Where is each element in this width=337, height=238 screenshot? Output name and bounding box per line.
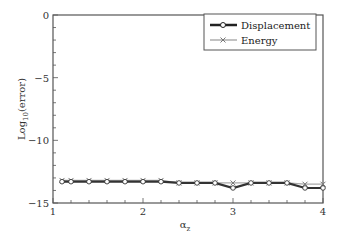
- legend-displacement-marker: [221, 23, 226, 28]
- x-axis-label-subscript: z: [187, 225, 191, 233]
- displacement-point: [321, 186, 326, 191]
- displacement-point: [177, 181, 182, 186]
- x-tick-label: 1: [50, 206, 56, 217]
- displacement-point: [195, 181, 200, 186]
- y-tick-label: 0: [43, 10, 49, 21]
- displacement-point: [267, 181, 272, 186]
- y-tick-label: −15: [28, 198, 49, 209]
- displacement-point: [69, 179, 74, 184]
- displacement-point: [159, 179, 164, 184]
- displacement-point: [105, 179, 110, 184]
- y-tick-label: −5: [34, 73, 49, 84]
- displacement-line: [62, 182, 323, 188]
- displacement-point: [123, 179, 128, 184]
- x-tick-label: 4: [320, 206, 326, 217]
- displacement-point: [213, 181, 218, 186]
- legend: Displacement Energy: [204, 14, 316, 50]
- x-axis-ticks: 1234: [50, 198, 326, 217]
- y-axis-label-subscript: 10: [22, 112, 30, 121]
- legend-energy-label: Energy: [241, 35, 278, 46]
- displacement-point: [231, 186, 236, 191]
- x-tick-label: 3: [230, 206, 236, 217]
- y-tick-label: −10: [28, 135, 49, 146]
- displacement-point: [249, 181, 254, 186]
- displacement-point: [87, 179, 92, 184]
- displacement-point: [141, 179, 146, 184]
- chart: 1234 0−5−10−15 Displacement Energy αz Lo…: [0, 0, 337, 238]
- x-tick-label: 2: [140, 206, 146, 217]
- displacement-point: [303, 186, 308, 191]
- x-axis-label: αz: [180, 219, 191, 233]
- displacement-point: [285, 181, 290, 186]
- series-layer: [60, 178, 326, 190]
- displacement-point: [60, 179, 65, 184]
- y-axis-label-suffix: (error): [16, 78, 27, 112]
- y-axis-label: Log10(error): [16, 78, 30, 140]
- legend-displacement-label: Displacement: [241, 20, 310, 31]
